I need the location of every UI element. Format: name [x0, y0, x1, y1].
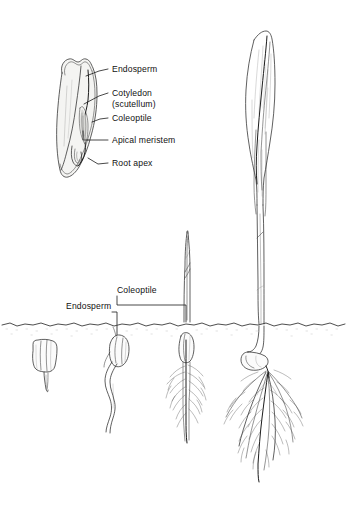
- field-label-leaders: [112, 296, 186, 336]
- label-cotyledon: Cotyledon: [112, 88, 152, 98]
- label-endosperm: Endosperm: [112, 64, 157, 74]
- stage-4-rootlets: [224, 370, 303, 469]
- leader-coleoptile-field: [117, 296, 186, 322]
- leader-endosperm-field: [112, 312, 117, 336]
- label-coleoptile-seed: Coleoptile: [112, 113, 152, 123]
- germination-figure: Endosperm Cotyledon (scutellum) Coleopti…: [0, 0, 347, 529]
- label-endosperm-field: Endosperm: [66, 301, 111, 311]
- stage-4-first-leaf: [224, 31, 303, 482]
- seed-label-texts: Endosperm Cotyledon (scutellum) Coleopti…: [112, 64, 175, 168]
- soil-stipple: [6, 329, 338, 336]
- stage-2-radicle-elongating: [104, 327, 129, 433]
- figure-canvas: Endosperm Cotyledon (scutellum) Coleopti…: [0, 0, 347, 529]
- label-root-apex: Root apex: [112, 158, 153, 168]
- label-coleoptile-field: Coleoptile: [117, 285, 157, 295]
- stage-1-imbibed-seed: [33, 339, 57, 391]
- soil-line: [2, 323, 345, 336]
- field-label-texts: Coleoptile Endosperm: [66, 285, 157, 311]
- label-apical-meristem: Apical meristem: [112, 135, 175, 145]
- leader-root-apex: [88, 158, 108, 164]
- stage-3-coleoptile-emerged: [166, 231, 206, 443]
- label-cotyledon-sub: (scutellum): [112, 99, 156, 109]
